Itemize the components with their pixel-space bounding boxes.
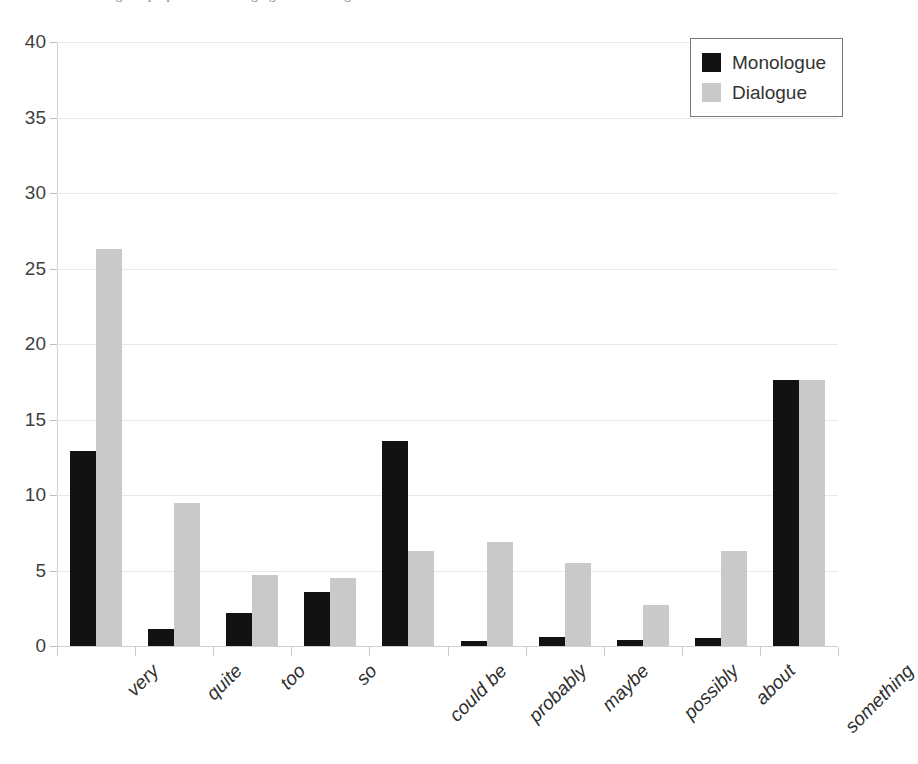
- x-tick-mark: [448, 647, 449, 656]
- bar-dialogue-so: [330, 578, 356, 646]
- y-tick-mark: [50, 344, 57, 345]
- x-tick-label: maybe: [597, 660, 653, 716]
- bar-dialogue-something: [799, 380, 825, 646]
- y-tick-mark: [50, 646, 57, 647]
- bar-dialogue-very: [96, 249, 122, 646]
- x-tick-mark: [57, 647, 58, 656]
- y-tick-mark: [50, 118, 57, 119]
- y-tick-label: 30: [4, 183, 46, 202]
- x-tick-mark: [526, 647, 527, 656]
- x-tick-label: very: [123, 660, 164, 701]
- x-tick-mark: [369, 647, 370, 656]
- bar-group: [291, 42, 369, 646]
- y-tick-mark: [50, 571, 57, 572]
- x-tick-mark: [213, 647, 214, 656]
- y-tick-mark: [50, 495, 57, 496]
- filled-square-icon: [702, 53, 721, 72]
- chart-legend: MonologueDialogue: [690, 38, 843, 117]
- legend-item-dialogue[interactable]: Dialogue: [702, 77, 832, 107]
- x-tick-label: quite: [202, 660, 247, 705]
- x-tick-mark: [838, 647, 839, 656]
- bar-monologue-about: [695, 638, 721, 646]
- bar-group: [604, 42, 682, 646]
- y-tick-label: 20: [4, 334, 46, 353]
- bar-group: [369, 42, 447, 646]
- bar-dialogue-about: [721, 551, 747, 646]
- y-tick-label: 15: [4, 410, 46, 429]
- y-tick-label: 5: [4, 561, 46, 580]
- bar-monologue-very: [70, 451, 96, 646]
- y-axis-tick-labels: 0510152025303540: [0, 0, 46, 764]
- x-tick-label: probably: [524, 660, 591, 727]
- bar-dialogue-possibly: [643, 605, 669, 646]
- y-tick-mark: [50, 42, 57, 43]
- bar-group: [682, 42, 760, 646]
- legend-label: Monologue: [732, 53, 826, 72]
- x-tick-mark: [760, 647, 761, 656]
- plot-area: [57, 42, 838, 646]
- bar-dialogue-too: [252, 575, 278, 646]
- x-tick-label: something: [841, 660, 918, 738]
- bar-group: [57, 42, 135, 646]
- y-tick-mark: [50, 193, 57, 194]
- filled-square-icon: [702, 83, 721, 102]
- bar-group: [213, 42, 291, 646]
- bar-monologue-maybe: [539, 637, 565, 646]
- legend-label: Dialogue: [732, 83, 807, 102]
- y-tick-mark: [50, 269, 57, 270]
- bar-monologue-possibly: [617, 640, 643, 646]
- x-tick-mark: [604, 647, 605, 656]
- bar-group: [526, 42, 604, 646]
- y-tick-label: 25: [4, 259, 46, 278]
- bar-dialogue-maybe: [565, 563, 591, 646]
- x-tick-mark: [135, 647, 136, 656]
- bar-monologue-probably: [461, 641, 487, 646]
- bar-group: [135, 42, 213, 646]
- x-tick-label: could be: [445, 660, 511, 726]
- bar-group: [448, 42, 526, 646]
- x-tick-label: possibly: [679, 660, 743, 724]
- bar-monologue-quite: [148, 629, 174, 646]
- x-tick-label: too: [276, 660, 310, 694]
- y-tick-label: 10: [4, 485, 46, 504]
- bar-dialogue-probably: [487, 542, 513, 646]
- bar-monologue-something: [773, 380, 799, 646]
- bar-group: [760, 42, 838, 646]
- y-tick-label: 35: [4, 108, 46, 127]
- legend-item-monologue[interactable]: Monologue: [702, 47, 832, 77]
- bar-monologue-so: [304, 592, 330, 646]
- x-tick-mark: [291, 647, 292, 656]
- bar-monologue-could-be: [382, 441, 408, 646]
- bar-monologue-too: [226, 613, 252, 646]
- bar-dialogue-quite: [174, 503, 200, 646]
- x-tick-mark: [682, 647, 683, 656]
- y-tick-label: 0: [4, 636, 46, 655]
- bar-dialogue-could-be: [408, 551, 434, 646]
- x-tick-label: about: [751, 660, 800, 709]
- y-tick-mark: [50, 420, 57, 421]
- y-tick-label: 40: [4, 32, 46, 51]
- x-tick-label: so: [352, 660, 382, 690]
